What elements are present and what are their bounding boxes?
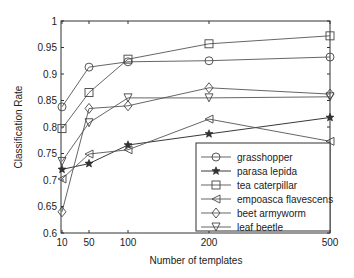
y-tick-label: 0.95 xyxy=(38,42,58,53)
x-axis-label: Number of templates xyxy=(150,255,243,266)
x-tick-label: 10 xyxy=(56,237,68,248)
x-tick-label: 50 xyxy=(83,237,95,248)
legend-label: beet armyworm xyxy=(237,208,306,219)
y-tick-label: 0.85 xyxy=(38,95,58,106)
legend-item: grasshopper xyxy=(201,152,293,163)
x-tick-label: 500 xyxy=(322,237,339,248)
x-tick-label: 100 xyxy=(120,237,137,248)
line-chart: 0.60.650.70.750.80.850.90.951 1050100200… xyxy=(0,0,354,278)
legend-item: tea caterpillar xyxy=(201,180,298,191)
legend-label: tea caterpillar xyxy=(237,180,298,191)
y-tick-label: 1 xyxy=(51,16,57,27)
legend: grasshopperparasa lepidatea caterpillare… xyxy=(196,143,333,233)
y-tick-label: 0.6 xyxy=(43,228,57,239)
legend-label: grasshopper xyxy=(237,152,293,163)
y-tick-label: 0.75 xyxy=(38,148,58,159)
legend-label: leaf beetle xyxy=(237,222,284,233)
y-axis-label: Classification Rate xyxy=(13,85,24,168)
y-tick-label: 0.7 xyxy=(43,175,57,186)
y-tick-label: 0.65 xyxy=(38,201,58,212)
legend-label: empoasca flavescens xyxy=(237,194,333,205)
y-tick-label: 0.8 xyxy=(43,122,57,133)
x-tick-label: 200 xyxy=(201,237,218,248)
legend-item: beet armyworm xyxy=(201,208,306,219)
legend-label: parasa lepida xyxy=(237,166,297,177)
y-tick-label: 0.9 xyxy=(43,69,57,80)
